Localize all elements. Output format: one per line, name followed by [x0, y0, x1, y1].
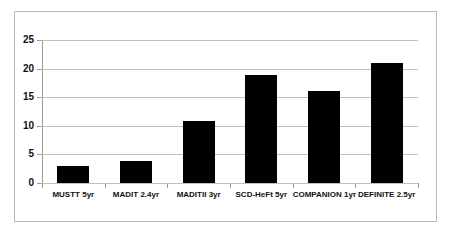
- bar: [183, 121, 215, 183]
- bar: [120, 161, 152, 183]
- x-axis-tick-mark: [293, 184, 294, 188]
- x-axis-category-label: COMPANION 1yr: [293, 190, 356, 200]
- y-axis-tick-mark: [37, 154, 42, 155]
- bar: [57, 166, 89, 183]
- y-axis-tick-label: 10: [4, 121, 34, 131]
- plot-area: [42, 40, 418, 183]
- bar: [371, 63, 403, 183]
- y-axis-tick-label: 5: [4, 149, 34, 159]
- x-axis-tick-mark: [167, 184, 168, 188]
- bar: [245, 75, 277, 183]
- bar-chart-figure: 0510152025 MUSTT 5yrMADIT 2.4yrMADITII 3…: [0, 0, 451, 238]
- y-axis-tick-mark: [37, 97, 42, 98]
- y-axis-tick-mark: [37, 126, 42, 127]
- x-axis-category-label: SCD-HeFt 5yr: [230, 190, 293, 200]
- y-axis-tick-label: 20: [4, 64, 34, 74]
- gridline: [42, 126, 418, 127]
- x-axis-tick-mark: [105, 184, 106, 188]
- x-axis-category-label: DEFINITE 2.5yr: [355, 190, 418, 200]
- x-axis-tick-mark: [230, 184, 231, 188]
- x-axis-category-label: MADITII 3yr: [167, 190, 230, 200]
- y-axis-tick-mark: [37, 69, 42, 70]
- x-axis-tick-mark: [355, 184, 356, 188]
- gridline: [42, 97, 418, 98]
- y-axis-tick-label: 0: [4, 178, 34, 188]
- y-axis-tick-labels: 0510152025: [0, 0, 34, 238]
- bar: [308, 91, 340, 183]
- y-axis-tick-mark: [37, 40, 42, 41]
- gridline: [42, 40, 418, 41]
- x-axis-category-label: MADIT 2.4yr: [105, 190, 168, 200]
- gridline: [42, 69, 418, 70]
- x-axis-category-label: MUSTT 5yr: [42, 190, 105, 200]
- x-axis-tick-mark: [418, 184, 419, 188]
- x-axis-tick-mark: [42, 184, 43, 188]
- gridline: [42, 154, 418, 155]
- y-axis-tick-label: 15: [4, 92, 34, 102]
- y-axis-tick-label: 25: [4, 35, 34, 45]
